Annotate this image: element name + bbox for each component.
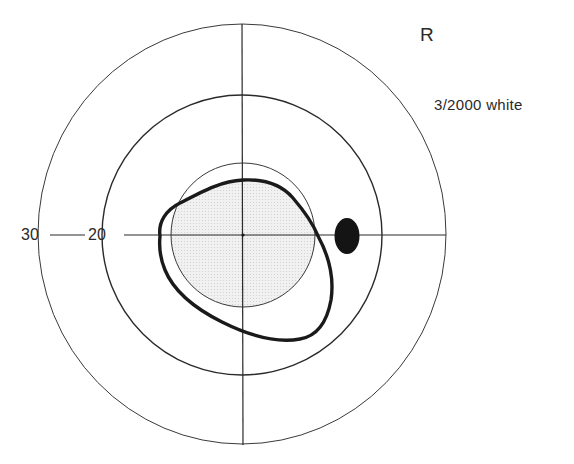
ring-label-30: 30 <box>21 226 39 244</box>
blind-spot <box>335 218 360 254</box>
visual-field-chart <box>0 0 574 464</box>
ring-label-20: 20 <box>88 226 106 244</box>
eye-label: R <box>420 24 434 46</box>
fixation-point <box>241 233 244 236</box>
stimulus-label: 3/2000 white <box>434 96 523 113</box>
shaded-central-region <box>160 180 332 340</box>
